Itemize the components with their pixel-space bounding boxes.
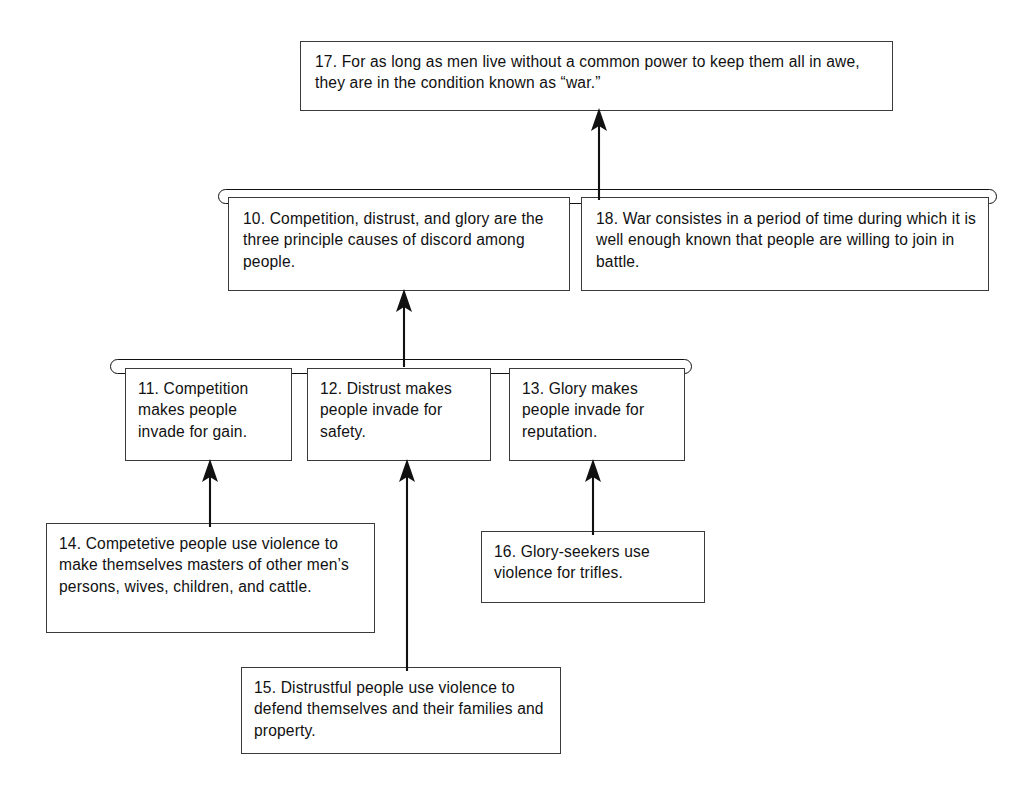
statement-text-16: 16. Glory-seekers use violence for trifl… bbox=[494, 541, 696, 584]
statement-text-15: 15. Distrustful people use violence to d… bbox=[254, 677, 552, 741]
statement-text-17: 17. For as long as men live without a co… bbox=[315, 51, 880, 94]
statement-box-11[interactable]: 11. Competition makes people invade for … bbox=[125, 368, 292, 461]
arrow-14-to-11 bbox=[196, 457, 224, 527]
statement-box-18[interactable]: 18. War consistes in a period of time du… bbox=[581, 197, 989, 291]
statement-text-11: 11. Competition makes people invade for … bbox=[138, 378, 283, 442]
statement-box-12[interactable]: 12. Distrust makes people invade for saf… bbox=[307, 368, 491, 461]
arrow-16-to-13 bbox=[579, 457, 607, 535]
statement-box-10[interactable]: 10. Competition, distrust, and glory are… bbox=[228, 197, 570, 291]
arrow-bar-11-12-13-to-10 bbox=[390, 287, 418, 367]
arrow-bar-10-18-to-17 bbox=[585, 106, 613, 200]
statement-box-13[interactable]: 13. Glory makes people invade for reputa… bbox=[509, 368, 685, 461]
statement-text-18: 18. War consistes in a period of time du… bbox=[596, 208, 978, 272]
statement-text-14: 14. Competetive people use violence to m… bbox=[59, 533, 366, 597]
statement-box-15[interactable]: 15. Distrustful people use violence to d… bbox=[241, 667, 561, 754]
statement-box-16[interactable]: 16. Glory-seekers use violence for trifl… bbox=[481, 531, 705, 603]
argument-diagram-canvas: 17. For as long as men live without a co… bbox=[0, 0, 1015, 796]
statement-text-13: 13. Glory makes people invade for reputa… bbox=[522, 378, 676, 442]
statement-box-14[interactable]: 14. Competetive people use violence to m… bbox=[46, 523, 375, 633]
statement-text-10: 10. Competition, distrust, and glory are… bbox=[243, 208, 559, 272]
statement-text-12: 12. Distrust makes people invade for saf… bbox=[320, 378, 482, 442]
arrow-15-to-12 bbox=[393, 457, 421, 671]
statement-box-17[interactable]: 17. For as long as men live without a co… bbox=[300, 41, 893, 111]
